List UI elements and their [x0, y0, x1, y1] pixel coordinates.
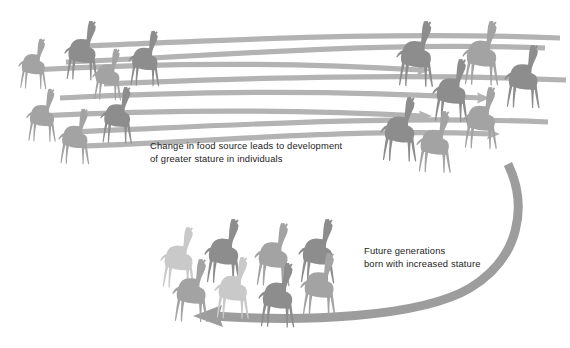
giraffe-evolution-diagram: Change in food source leads to developme… — [0, 0, 570, 348]
caption-change-food-source-line2: of greater stature in individuals — [150, 153, 283, 164]
caption-future-generations-line2: born with increased stature — [364, 258, 481, 269]
caption-future-generations-line1: Future generations — [364, 245, 446, 256]
diagram-canvas: Change in food source leads to developme… — [0, 0, 570, 348]
caption-change-food-source-line1: Change in food source leads to developme… — [150, 140, 343, 151]
